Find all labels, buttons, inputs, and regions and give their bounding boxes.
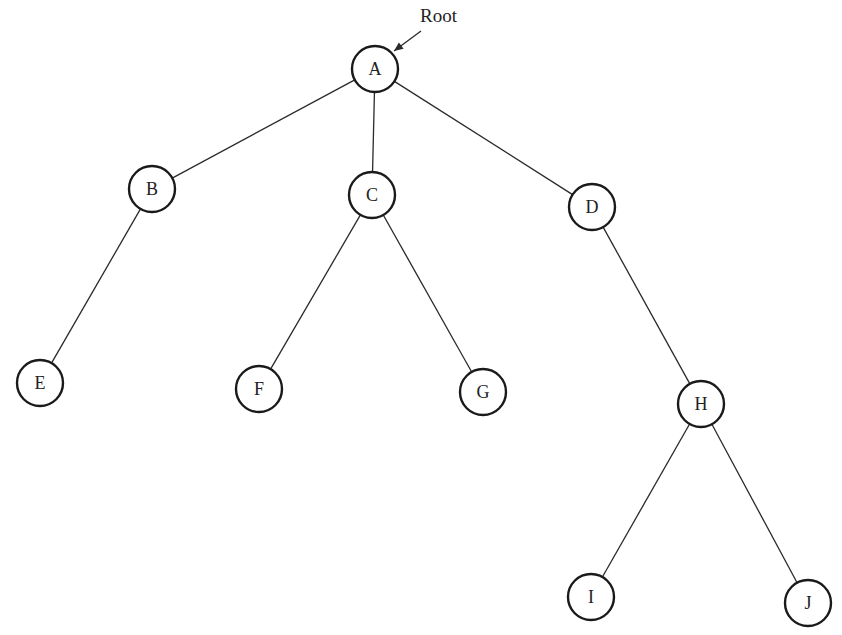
node-label: D xyxy=(586,197,599,217)
edge-c-f xyxy=(271,215,361,369)
node-label: H xyxy=(695,394,708,414)
root-annotation: Root xyxy=(394,5,458,51)
edge-d-h xyxy=(603,227,690,384)
node-label: E xyxy=(35,373,46,393)
node-label: G xyxy=(477,382,490,402)
node-b: B xyxy=(129,166,175,212)
edge-h-j xyxy=(712,424,797,582)
node-h: H xyxy=(678,381,724,427)
root-label: Root xyxy=(420,5,458,26)
node-i: I xyxy=(568,574,614,620)
tree-diagram: ABCDEFGHIJ Root xyxy=(0,0,842,635)
node-label: A xyxy=(369,59,382,79)
edge-h-i xyxy=(602,424,689,577)
arrow-head-icon xyxy=(394,42,404,51)
node-label: F xyxy=(254,379,264,399)
edge-a-c xyxy=(373,92,375,172)
edge-c-g xyxy=(383,215,471,372)
edge-a-b xyxy=(172,80,354,178)
node-label: B xyxy=(146,179,158,199)
node-a: A xyxy=(352,46,398,92)
edge-a-d xyxy=(394,81,572,194)
edge-b-e xyxy=(51,209,140,363)
node-e: E xyxy=(17,360,63,406)
node-j: J xyxy=(785,580,831,626)
node-label: J xyxy=(804,593,811,613)
node-c: C xyxy=(349,172,395,218)
node-d: D xyxy=(569,184,615,230)
node-label: C xyxy=(366,185,378,205)
node-g: G xyxy=(460,369,506,415)
node-label: I xyxy=(588,587,594,607)
nodes-layer: ABCDEFGHIJ xyxy=(17,46,831,626)
node-f: F xyxy=(236,366,282,412)
edges-layer xyxy=(51,80,797,583)
